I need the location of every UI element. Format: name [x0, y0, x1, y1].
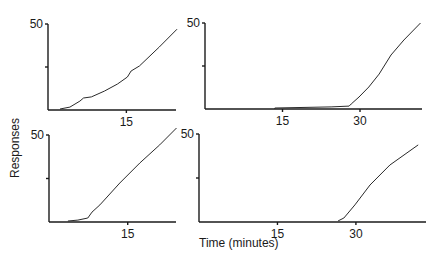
panel-bottom-left: 5015	[31, 128, 177, 241]
cumulative-record-line	[60, 29, 177, 109]
panel-top-right: 501530	[187, 16, 422, 128]
y-tick-label: 50	[181, 127, 195, 141]
y-tick-label: 50	[187, 16, 201, 30]
x-tick-label: 30	[353, 114, 367, 128]
y-axis-title: Responses	[8, 118, 22, 178]
y-tick-label: 50	[30, 17, 44, 31]
x-axis-title: Time (minutes)	[199, 236, 279, 250]
x-tick-label: 15	[276, 114, 290, 128]
cumulative-record-line	[68, 128, 177, 221]
y-tick-label: 50	[31, 128, 45, 142]
cumulative-record-line	[338, 145, 418, 221]
cumulative-record-line	[275, 23, 421, 109]
chart-figure: 50155015305015501530 Responses Time (min…	[0, 0, 437, 268]
x-tick-label: 30	[349, 227, 363, 241]
x-tick-label: 15	[121, 227, 135, 241]
x-tick-label: 15	[120, 115, 134, 129]
panel-bottom-right: 501530	[181, 127, 426, 241]
panel-top-left: 5015	[30, 17, 177, 129]
